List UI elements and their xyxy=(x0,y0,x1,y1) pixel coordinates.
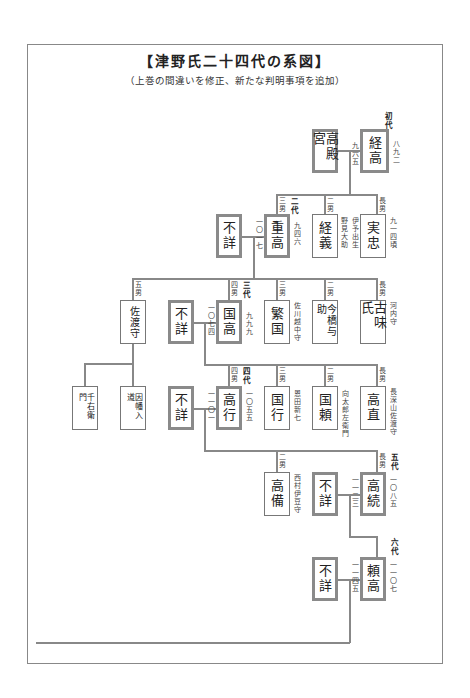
gen4-descent-line xyxy=(204,408,206,450)
gen2-main-order: 三男 xyxy=(278,197,285,213)
gen6-main-box: 頼高 xyxy=(360,557,386,601)
gen2-main-box: 重高 xyxy=(264,214,290,258)
gen1-spouse-box: 高殿宮 xyxy=(312,129,338,173)
gen4-sib2-order: 長男 xyxy=(378,367,385,383)
gen4-sib0-order: 三男 xyxy=(278,367,285,383)
gen3-spouse-name: 不詳 xyxy=(175,307,188,337)
gen2-sib1-box: 実忠 xyxy=(360,214,386,258)
gen6-main-note: 一一四五 xyxy=(351,561,358,593)
gen6-main-date: 一一〇七 xyxy=(389,561,396,593)
gen4-main-name: 高行 xyxy=(223,393,236,423)
gen4-sib1-order: 二男 xyxy=(326,367,333,383)
gen3-main-name: 国高 xyxy=(223,307,236,337)
gen3-sib3-note: 河内守 xyxy=(389,302,396,326)
gen2-sib1-date: 九一四頃 xyxy=(389,217,396,249)
gen4-sib2-box: 高直 xyxy=(360,386,386,430)
gen4-sib1-name: 国頼 xyxy=(319,393,332,423)
sado-descent-line xyxy=(132,344,134,364)
gen4-sib0-name: 国行 xyxy=(271,393,284,423)
page-subtitle: （上巻の間違いを修正、新たな判明事項を追加） xyxy=(0,73,470,87)
gen4-label: 四代 xyxy=(242,367,250,385)
gen4-main-note: 一一〇一 xyxy=(207,390,214,422)
gen3-label: 三代 xyxy=(242,281,250,299)
gen5-sib0-box: 高備 xyxy=(264,472,290,516)
gen2-sib0-name: 経義 xyxy=(319,221,332,251)
gen3-sib1-box: 繁国 xyxy=(264,300,290,344)
gen3-sib3-order: 長男 xyxy=(378,281,385,297)
sado-child1-box: 因幡入道 xyxy=(120,386,146,430)
gen3-main-box: 国高 xyxy=(216,300,242,344)
gen4-main-date: 一〇五五 xyxy=(245,390,252,422)
gen5-main-date: 一〇八五 xyxy=(389,476,396,508)
gen5-descent-line xyxy=(349,494,351,537)
gen4-main-order: 四男 xyxy=(230,367,237,383)
gen4-spouse-name: 不詳 xyxy=(175,393,188,423)
gen1-head-name: 経高 xyxy=(368,136,381,166)
gen2-main-date: 九四六 xyxy=(293,222,300,246)
gen3-sib2-name: 今橋与助 xyxy=(315,304,335,340)
sado-drop-line xyxy=(132,363,134,386)
gen4-spouse-box: 不詳 xyxy=(168,386,194,430)
gen6-line xyxy=(349,536,377,538)
gen3-sibling-line xyxy=(132,278,377,280)
gen3-main-order: 四男 xyxy=(230,281,237,297)
gen1-spouse-name: 高殿宮 xyxy=(312,132,338,170)
continuation-line xyxy=(36,642,350,644)
gen5-sib0-order: 二男 xyxy=(278,453,285,469)
gen6-spouse-name: 不詳 xyxy=(319,564,332,594)
gen4-sib2-name: 高直 xyxy=(367,393,380,423)
gen3-sib1-name: 繁国 xyxy=(271,307,284,337)
gen2-sib0-note: 野見大助 xyxy=(340,217,347,249)
gen2-sib0-order: 二男 xyxy=(326,197,333,213)
gen2-spouse-name: 不詳 xyxy=(223,221,236,251)
gen2-sib0-box: 経義 xyxy=(312,214,338,258)
gen4-sib1-note: 向太郎左衛門 xyxy=(341,390,348,438)
gen2-spouse-box: 不詳 xyxy=(216,214,242,258)
gen3-sib1-note: 佐川越中守 xyxy=(293,302,300,342)
gen4-sib1-box: 国頼 xyxy=(312,386,338,430)
gen2-main-note: 一〇一七 xyxy=(255,218,262,250)
gen5-main-note: 一一二三 xyxy=(351,476,358,508)
gen1-note: 九六五 xyxy=(351,142,358,166)
gen2-sib1-note: 伊予出生 xyxy=(351,217,358,249)
page-title: 【津野氏二十四代の系図】 xyxy=(0,50,470,70)
gen1-head-box: 経高 xyxy=(360,129,389,173)
sado-child0-name: 千右衛門 xyxy=(77,393,93,423)
gen6-descent-line xyxy=(349,579,351,643)
gen2-main-name: 重高 xyxy=(271,221,284,251)
sado-drop-line xyxy=(84,363,86,386)
gen6-main-name: 頼高 xyxy=(367,564,380,594)
gen6-drop-line xyxy=(376,536,378,557)
gen3-main-date: 九九九 xyxy=(245,312,252,336)
gen4-main-box: 高行 xyxy=(216,386,242,430)
sado-child0-box: 千右衛門 xyxy=(72,386,98,430)
gen5-sibling-line xyxy=(204,450,377,452)
gen4-sib0-note: 恩田新七 xyxy=(293,390,300,422)
gen3-main-note: 一〇七四 xyxy=(207,304,214,336)
sado-children-line xyxy=(84,363,133,365)
gen2-descent-line xyxy=(253,236,255,278)
gen5-sib0-name: 高備 xyxy=(271,479,284,509)
sado-child1-name: 因幡入道 xyxy=(125,393,141,423)
gen5-spouse-box: 不詳 xyxy=(312,472,338,516)
gen3-sib2-box: 今橋与助 xyxy=(312,300,338,344)
gen2-sib1-order: 長男 xyxy=(378,197,385,213)
gen3-sib2-order: 二男 xyxy=(326,281,333,297)
gen5-label: 五代 xyxy=(390,453,398,471)
gen3-spouse-box: 不詳 xyxy=(168,300,194,344)
gen4-sib0-box: 国行 xyxy=(264,386,290,430)
gen3-descent-line xyxy=(204,322,206,364)
gen6-label: 六代 xyxy=(390,538,398,556)
gen5-main-order: 長男 xyxy=(378,453,385,469)
gen1-descent-line xyxy=(349,150,351,194)
gen5-sib0-note: 西村伊豆守 xyxy=(293,474,300,514)
gen2-sib1-name: 実忠 xyxy=(367,221,380,251)
gen3-sib0-box: 佐渡守 xyxy=(120,300,146,344)
gen5-spouse-name: 不詳 xyxy=(319,479,332,509)
gen3-sib0-name: 佐渡守 xyxy=(128,306,138,339)
gen3-sib3-box: 古味氏 xyxy=(360,300,386,344)
gen2-sibling-line xyxy=(276,194,377,196)
gen1-date: 八九二 xyxy=(392,140,399,164)
gen3-sib1-order: 三男 xyxy=(278,281,285,297)
gen2-label: 二代 xyxy=(290,197,298,215)
